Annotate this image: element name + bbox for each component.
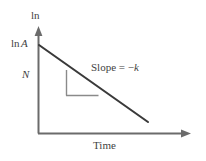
y-axis-arrowhead-icon [35,26,43,36]
y-intercept-symbol: A [20,37,28,49]
y-intercept-label: lnA [11,38,28,49]
decay-plot-figure: ln lnA N Slope = −k Time [0,0,206,161]
y-quantity-label: N [22,69,29,80]
slope-annotation-symbol: k [134,61,139,73]
y-intercept-prefix: ln [11,37,20,49]
x-axis-arrowhead-icon [181,130,191,138]
x-axis-label: Time [93,140,116,151]
decay-line-series [39,45,148,122]
slope-annotation: Slope = −k [91,62,139,73]
plot-canvas [0,0,206,161]
y-axis-label: ln [31,10,40,21]
axes-group [35,26,191,137]
slope-annotation-prefix: Slope = − [91,61,134,73]
